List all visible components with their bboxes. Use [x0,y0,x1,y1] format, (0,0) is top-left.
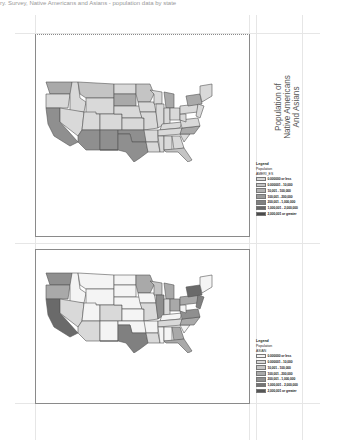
state-nm [100,321,118,341]
legend-class: 2,000,001 or greater [256,211,298,216]
legend-class: 0.000001 - 10,000 [256,182,298,187]
state-sd [114,94,136,106]
state-az [78,130,100,150]
legend-swatch [256,177,266,182]
legend-field: AMERI_ES [256,172,298,177]
legend-asians: Legend Population ASIAN 0.000000 or less… [256,339,298,393]
state-mt [78,273,114,289]
title-line-1: Population of [274,75,283,139]
state-al [164,327,172,341]
legend-swatch [256,360,266,365]
state-az [78,321,100,341]
state-fl [164,339,192,353]
state-in [164,108,170,124]
state-sd [114,285,136,297]
state-la [146,142,160,152]
map-title: Population of Native Americans And Asian… [274,75,301,139]
legend-class: 10,001 - 100,000 [256,188,298,193]
legend-swatch [256,389,266,394]
state-ny [186,94,202,106]
state-new-england [200,275,212,293]
clipped-caption: ry. Survey, Native Americans and Asians … [0,0,340,6]
legend-class: 0.000000 or less [256,177,298,182]
legend-class: 10,001 - 100,000 [256,365,298,370]
state-ut [82,112,100,130]
state-mi [164,283,174,299]
state-ks [122,118,144,130]
state-ia [138,293,156,303]
legend-class: 100,001 - 200,000 [256,371,298,376]
state-mi [164,92,174,108]
state-or [46,285,70,299]
state-ia [138,102,156,112]
legend-class: 0.000000 or less [256,354,298,359]
state-wa [46,273,72,285]
legend-class: 200,001 - 1,000,000 [256,377,298,382]
state-fl [164,148,192,162]
state-mt [78,82,114,98]
state-oh [170,108,180,120]
state-oh [170,299,180,311]
legend-swatch [256,365,266,370]
state-or [46,94,70,108]
state-wy [86,289,114,305]
state-la [146,333,160,343]
state-ut [82,303,100,321]
state-co [100,114,122,130]
legend-class: 2,000,001 or greater [256,388,298,393]
state-co [100,305,122,321]
legend-class: 0.000001 - 10,000 [256,359,298,364]
legend-class: 200,001 - 1,000,000 [256,200,298,205]
legend-swatch [256,383,266,388]
legend-swatch [256,194,266,199]
state-nd [114,275,136,285]
state-nm [100,130,118,150]
title-box: Population of Native Americans And Asian… [270,57,304,157]
legend-class: 1,000,001 - 2,000,000 [256,206,298,211]
legend-swatch [256,371,266,376]
state-ar [144,130,158,142]
legend-class: 1,000,001 - 2,000,000 [256,383,298,388]
state-in [164,299,170,315]
legend-class: 100,001 - 200,000 [256,194,298,199]
legend-field: ASIAN [256,349,298,354]
state-nd [114,84,136,94]
legend-swatch [256,212,266,217]
us-map-asians[interactable] [44,271,214,353]
legend-swatch [256,200,266,205]
legend-swatch [256,377,266,382]
legend-swatch [256,188,266,193]
legend-swatch [256,206,266,211]
legend-swatch [256,354,266,359]
title-line-2: Native Americans [283,75,292,139]
state-wa [46,82,72,94]
us-map-native-americans[interactable] [44,80,214,162]
state-new-england [200,84,212,102]
state-al [164,136,172,150]
guide-line [15,243,320,244]
state-ks [122,309,144,321]
state-ar [144,321,158,333]
legend-native-americans: Legend Population AMERI_ES 0.000000 or l… [256,162,298,216]
legend-swatch [256,183,266,188]
state-mn [136,84,154,102]
title-line-3: And Asians [292,75,301,139]
state-mn [136,275,154,293]
state-wy [86,98,114,114]
state-ny [186,285,202,297]
